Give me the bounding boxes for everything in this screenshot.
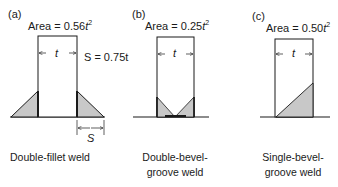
panel-a-size-label: S = 0.75t xyxy=(84,51,128,64)
panel-a-area-label: Area = 0.56t2 xyxy=(28,20,92,33)
panel-c-width-t: t xyxy=(292,47,295,60)
panel-b-drawing xyxy=(133,37,209,117)
panel-a-caption: Double-fillet weld xyxy=(10,150,120,165)
left-fillet-weld xyxy=(11,91,38,117)
panel-a-size-dim: S xyxy=(87,132,94,145)
panel-a-width-t: t xyxy=(55,47,58,60)
panel-a-tag: (a) xyxy=(8,8,21,21)
panel-c-caption: Single-bevel-groove weld xyxy=(250,150,336,180)
panel-c-area-label: Area = 0.50t2 xyxy=(266,22,330,35)
panel-b-width-t: t xyxy=(173,47,176,60)
right-fillet-weld xyxy=(77,91,104,117)
panel-b-tag: (b) xyxy=(132,8,145,21)
panel-b-caption: Double-bevel-groove weld xyxy=(130,150,220,180)
panel-c-tag: (c) xyxy=(252,10,265,23)
panel-b-area-label: Area = 0.25t2 xyxy=(145,20,209,33)
